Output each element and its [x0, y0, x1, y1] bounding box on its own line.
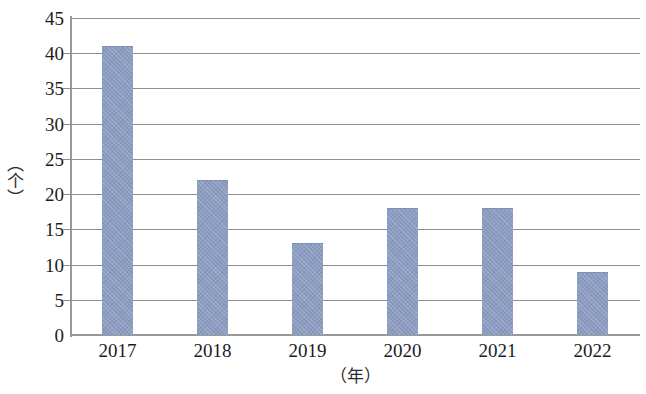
bar-2017: [102, 46, 133, 335]
gridline: [70, 18, 640, 19]
bar-chart-figure: （个） 454035302520151050 20172018201920202…: [0, 0, 646, 394]
bar-2019: [292, 243, 323, 335]
x-axis-title-text: （年）: [330, 367, 381, 386]
bar-2018: [197, 180, 228, 335]
gridline: [70, 88, 640, 89]
y-axis-tick-mark: [63, 300, 70, 301]
bar-2020: [387, 208, 418, 335]
plot-area: [70, 18, 640, 335]
x-axis-tick-label-2019: 2019: [268, 340, 348, 363]
gridline: [70, 159, 640, 160]
x-axis-tick-label-2018: 2018: [173, 340, 253, 363]
y-axis-tick-mark: [63, 124, 70, 125]
x-axis-tick-label-2017: 2017: [78, 340, 158, 363]
y-axis-tick-mark: [63, 88, 70, 89]
gridline: [70, 300, 640, 301]
y-axis-tick-mark: [63, 53, 70, 54]
bar-2021: [482, 208, 513, 335]
y-axis-tick-mark: [63, 159, 70, 160]
x-axis-tick-labels: 201720182019202020212022: [70, 340, 640, 368]
gridline: [70, 229, 640, 230]
y-axis-tick-mark: [63, 194, 70, 195]
y-axis-tick-marks: [0, 18, 70, 335]
gridline: [70, 265, 640, 266]
gridline: [70, 53, 640, 54]
y-axis-tick-mark: [63, 265, 70, 266]
gridline: [70, 124, 640, 125]
x-axis-tick-label-2020: 2020: [363, 340, 443, 363]
x-axis-tick-label-2022: 2022: [553, 340, 633, 363]
gridline: [70, 194, 640, 195]
x-axis-baseline: [70, 334, 640, 336]
x-axis-title: （年）: [70, 368, 640, 387]
bar-2022: [577, 272, 608, 335]
x-axis-tick-label-2021: 2021: [458, 340, 538, 363]
y-axis-tick-mark: [63, 229, 70, 230]
